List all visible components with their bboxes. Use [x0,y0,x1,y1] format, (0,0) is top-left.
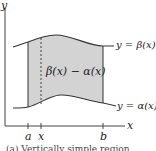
y-axis-label: y [1,0,7,11]
tick-label-a: a [25,131,32,142]
upper-curve-label: y = β(x) [116,40,156,50]
caption: (a) Vertically simple region [6,144,130,151]
tick-label-x: x [38,131,44,142]
region-label: β(x) − α(x) [46,66,106,77]
lower-curve-label: y = α(x) [117,101,156,111]
tick-label-b: b [100,131,107,142]
x-axis-label: x [127,120,133,131]
